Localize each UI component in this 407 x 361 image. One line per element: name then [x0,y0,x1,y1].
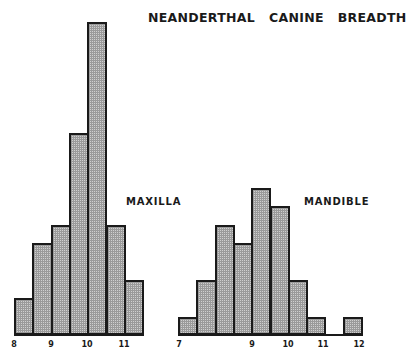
x-tick-label: 11 [317,340,328,349]
histogram-bar [106,225,126,335]
histogram-bar [196,280,216,335]
x-axis-baseline [178,334,363,336]
x-tick-label: 10 [81,340,92,349]
mandible-label: MANDIBLE [304,196,369,207]
x-tick-label: 10 [282,340,293,349]
histogram-bar [14,298,34,335]
histogram-bar [124,280,144,335]
x-axis-baseline [14,334,144,336]
histogram-bar [32,243,52,335]
x-tick-label: 8 [11,340,17,349]
histogram-bar [69,133,89,335]
x-tick-label: 9 [48,340,54,349]
histogram-bar [87,22,107,335]
x-tick-label: 12 [353,340,364,349]
x-tick-label: 9 [249,340,255,349]
histogram-bar [233,243,253,335]
histogram-bar [288,280,308,335]
x-tick-label: 7 [176,340,182,349]
histogram-bar [343,317,363,335]
histogram-bar [51,225,71,335]
histogram-bar [178,317,198,335]
histogram-bar [306,317,326,335]
histogram-bar [251,188,271,335]
maxilla-label: MAXILLA [126,196,181,207]
x-tick-label: 11 [118,340,129,349]
histogram-bar [270,206,290,335]
histogram-bar [215,225,235,335]
chart-title: NEANDERTHAL CANINE BREADTH [148,10,407,25]
